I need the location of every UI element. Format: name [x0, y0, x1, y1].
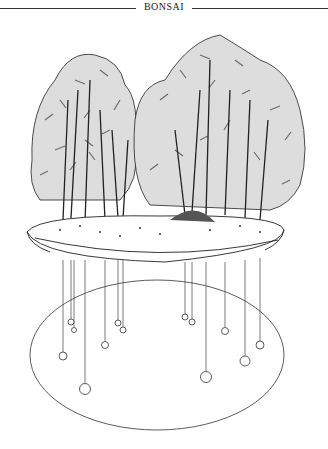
trunk-projections	[63, 258, 260, 383]
bonsai-illustration	[0, 0, 328, 449]
tree-canopy	[31, 35, 305, 210]
plan-oval	[30, 280, 284, 430]
trunk-position-markers	[59, 314, 264, 395]
bonsai-pot	[27, 216, 284, 262]
